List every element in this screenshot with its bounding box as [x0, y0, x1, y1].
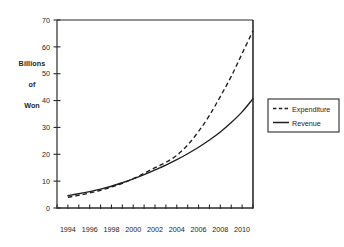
data-series: [68, 31, 253, 198]
y-tick-label: 70: [17, 16, 50, 25]
y-tick-label: 0: [17, 204, 50, 213]
y-tick-label: 10: [17, 177, 50, 186]
legend-label-expenditure: Expenditure: [292, 105, 330, 114]
y-axis-title-line-2: of: [10, 80, 54, 89]
line-chart: Billions of Won 010203040506070 19941996…: [0, 0, 344, 247]
revenue-line: [68, 99, 253, 196]
y-axis-title-line-1: Billions: [10, 59, 54, 68]
x-tick-label: 2010: [229, 225, 255, 234]
legend-label-revenue: Revenue: [292, 119, 321, 128]
plot-frame: [57, 20, 253, 208]
y-tick-label: 20: [17, 150, 50, 159]
y-tick-label: 60: [17, 43, 50, 52]
y-tick-label: 50: [17, 69, 50, 78]
expenditure-line: [68, 31, 253, 198]
y-tick-label: 30: [17, 123, 50, 132]
y-tick-label: 40: [17, 96, 50, 105]
